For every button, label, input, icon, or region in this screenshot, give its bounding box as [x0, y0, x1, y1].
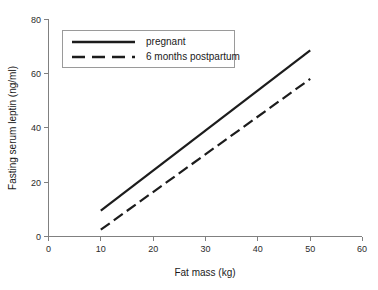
- y-tick-label-40: 40: [31, 123, 41, 133]
- data-series: [101, 50, 310, 229]
- series-line-pregnant: [101, 50, 310, 210]
- y-tick-label-20: 20: [31, 178, 41, 188]
- x-axis-title: Fat mass (kg): [174, 267, 235, 278]
- series-line-6-months-postpartum: [101, 79, 310, 230]
- x-tick-label-50: 50: [305, 244, 315, 254]
- x-tick-label-0: 0: [46, 244, 51, 254]
- leptin-vs-fat-mass-line-chart: 0 20 40 60 80 0 10 20 30 40 50 60 Fat ma…: [0, 0, 378, 290]
- legend: pregnant 6 months postpartum: [63, 31, 240, 68]
- y-axis-ticks: 0 20 40 60 80: [31, 15, 49, 243]
- x-tick-label-40: 40: [253, 244, 263, 254]
- x-tick-label-10: 10: [96, 244, 106, 254]
- y-tick-label-60: 60: [31, 69, 41, 79]
- x-tick-label-30: 30: [200, 244, 210, 254]
- x-axis-ticks: 0 10 20 30 40 50 60: [46, 237, 367, 255]
- chart-figure: 0 20 40 60 80 0 10 20 30 40 50 60 Fat ma…: [0, 0, 378, 290]
- y-tick-label-0: 0: [36, 232, 41, 242]
- y-axis-title: Fasting serum leptin (ng/ml): [7, 66, 18, 190]
- x-tick-label-60: 60: [357, 244, 367, 254]
- legend-label-pregnant: pregnant: [146, 36, 186, 47]
- x-tick-label-20: 20: [148, 244, 158, 254]
- y-tick-label-80: 80: [31, 15, 41, 25]
- legend-label-6-months-postpartum: 6 months postpartum: [146, 51, 240, 62]
